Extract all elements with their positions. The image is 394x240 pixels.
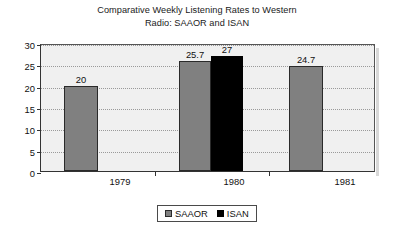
x-axis-label-1980: 1980 [224,176,245,187]
y-axis-tick-15 [37,109,41,110]
legend-item-saaor: SAAOR [165,208,208,219]
legend-item-isan: ISAN [217,208,249,219]
legend-swatch-isan-icon [217,210,224,217]
y-axis-label-25: 25 [25,61,35,72]
bar-value-label-1980-saaor: 25.7 [186,49,204,60]
y-axis-tick-30 [37,45,41,46]
x-axis-label-1981: 1981 [335,176,356,187]
legend-label-isan: ISAN [227,208,249,219]
bar-value-label-1981-saaor: 24.7 [297,54,315,65]
y-axis-label-30: 30 [25,40,35,51]
y-axis-tick-20 [37,88,41,89]
y-axis-label-0: 0 [30,168,35,179]
y-axis-label-10: 10 [25,125,35,136]
bar-1981-saaor[interactable] [289,66,323,171]
y-axis-label-15: 15 [25,104,35,115]
chart-title: Comparative Weekly Listening Rates to We… [0,4,394,29]
y-axis-tick-0 [37,173,41,174]
chart-legend: SAAOR ISAN [157,205,257,222]
chart-title-line-1: Comparative Weekly Listening Rates to We… [0,4,394,17]
gridline-30 [41,45,374,46]
y-axis-label-20: 20 [25,82,35,93]
bar-value-label-1979-saaor: 20 [76,74,86,85]
y-axis-tick-10 [37,130,41,131]
y-axis-tick-25 [37,66,41,67]
chart-title-line-2: Radio: SAAOR and ISAN [0,17,394,30]
plot-area-shadow [376,48,379,176]
bar-1980-saaor[interactable] [179,61,211,171]
x-axis-tick-2 [269,171,270,176]
x-axis-tick-1 [155,171,156,176]
bar-value-label-1980-isan: 27 [222,44,232,55]
y-axis-tick-5 [37,152,41,153]
bar-1979-saaor[interactable] [64,86,98,171]
plot-area: 0510152025302025.72724.7 [40,44,375,172]
bar-1980-isan[interactable] [211,56,243,171]
bar-chart-figure: Comparative Weekly Listening Rates to We… [0,0,394,240]
legend-swatch-saaor-icon [165,210,172,217]
x-axis-label-1979: 1979 [110,176,131,187]
y-axis-label-5: 5 [30,146,35,157]
legend-label-saaor: SAAOR [175,208,208,219]
